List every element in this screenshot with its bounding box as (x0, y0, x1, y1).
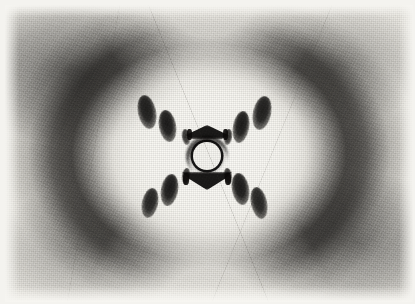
reflection-spot (156, 109, 178, 143)
meridional-tick (223, 129, 228, 140)
diffraction-plate (5, 5, 413, 302)
reflection-spot (250, 95, 275, 132)
reflection-spot (230, 110, 251, 144)
reflection-spot (158, 173, 180, 207)
reflection-spot (139, 187, 161, 220)
image-subject-label: Photo 51 — B-form DNA fibre X-ray diffra… (0, 0, 1, 1)
reflection-spot (135, 94, 160, 131)
photo-canvas: Photo 51 — B-form DNA fibre X-ray diffra… (0, 0, 415, 304)
meridional-tick (187, 129, 192, 140)
reflection-spot (229, 172, 251, 206)
reflection-spot (248, 186, 270, 221)
beamstop-disc (193, 142, 221, 170)
meridional-tick (225, 173, 231, 185)
meridional-tick (183, 173, 189, 185)
